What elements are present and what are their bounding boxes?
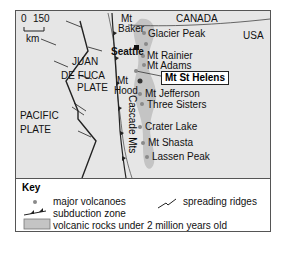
country-usa: USA: [243, 31, 264, 41]
spreading-ridge: [66, 21, 96, 178]
map-figure: 0 150 km CANADA USA JUAN DE FUCA PLATE P…: [15, 10, 271, 232]
volcano-glacier-peak: Glacier Peak: [148, 29, 205, 39]
volcano-mt-st-helens-callout: Mt St Helens: [161, 71, 229, 85]
legend-label-spreading: spreading ridges: [183, 196, 257, 207]
plate-label-line1: JUAN: [72, 57, 98, 67]
legend-label-volcanic-rock: volcanic rocks under 2 million years old: [53, 220, 227, 231]
scale-max: 150: [33, 14, 50, 24]
map-area: 0 150 km CANADA USA JUAN DE FUCA PLATE P…: [16, 11, 270, 179]
pacific-plate-line2: PLATE: [20, 125, 51, 135]
legend-label-volcanoes: major volcanoes: [53, 196, 126, 207]
volcano-mt-baker-l2: Baker: [118, 24, 144, 34]
range-label: Cascade Mts: [127, 95, 138, 153]
plate-label-line2: DE FUCA: [61, 71, 105, 81]
volcano-mt-adams: Mt Adams: [147, 61, 191, 71]
volcano-mt-jefferson: Mt Jefferson: [145, 89, 200, 99]
country-canada: CANADA: [176, 14, 218, 24]
volcano-dot-icon: [33, 200, 37, 204]
scale-unit: km: [26, 34, 39, 44]
spreading-ridge-icon: [158, 199, 176, 208]
city-seattle: Seattle: [111, 47, 144, 57]
legend: Key major volcanoes spreading ridges sub…: [16, 179, 270, 232]
volcano-lassen-peak: Lassen Peak: [152, 152, 210, 162]
volcano-crater-lake: Crater Lake: [145, 122, 197, 132]
scale-bar: [24, 27, 44, 31]
volcano-mt-shasta: Mt Shasta: [148, 138, 193, 148]
pacific-plate-line1: PACIFIC: [20, 111, 59, 121]
map-graphics: [16, 11, 270, 178]
volcanic-rock-swatch: [24, 219, 50, 229]
plate-label-line3: PLATE: [77, 83, 108, 93]
volcano-three-sisters: Three Sisters: [147, 100, 206, 110]
scale-zero: 0: [21, 14, 27, 24]
legend-label-subduction: subduction zone: [53, 208, 126, 219]
